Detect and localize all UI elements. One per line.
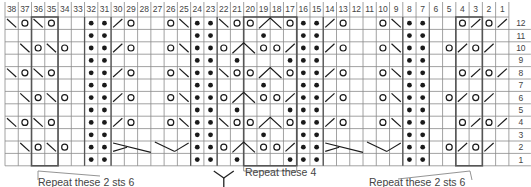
column-label: 21 <box>232 4 242 14</box>
purl-dot-icon <box>89 95 94 100</box>
yarn-over-icon <box>221 95 227 101</box>
column-label: 31 <box>100 4 110 14</box>
column-label: 37 <box>20 4 30 14</box>
purl-dot-icon <box>420 145 425 150</box>
k2tog-icon <box>471 19 480 27</box>
purl-dot-icon <box>195 95 200 100</box>
row-label: 12 <box>516 18 526 28</box>
yarn-over-icon <box>380 45 386 51</box>
ssk-icon <box>7 118 16 126</box>
column-label: 32 <box>86 4 96 14</box>
purl-dot-icon <box>195 70 200 75</box>
ssk-icon <box>7 19 16 27</box>
row-label: 11 <box>516 31 525 41</box>
yarn-over-icon <box>62 144 68 150</box>
k2tog-icon <box>325 93 334 101</box>
yarn-over-icon <box>128 95 134 101</box>
yarn-over-icon <box>486 119 492 125</box>
ssk-icon <box>392 19 401 27</box>
yarn-over-icon <box>261 95 267 101</box>
purl-dot-icon <box>314 83 319 88</box>
purl-dot-icon <box>301 120 306 125</box>
column-label: 16 <box>299 4 309 14</box>
yarn-over-icon <box>340 70 346 76</box>
row-label: 2 <box>519 142 524 152</box>
column-label: 7 <box>420 4 425 14</box>
purl-dot-icon <box>420 33 425 38</box>
purl-dot-icon <box>89 157 94 162</box>
purl-dot-icon <box>89 21 94 26</box>
yarn-over-icon <box>234 20 240 26</box>
k2tog-icon <box>458 44 467 52</box>
column-label: 25 <box>179 4 189 14</box>
ssk-icon <box>20 143 29 151</box>
yarn-over-icon <box>473 45 479 51</box>
purl-dot-icon <box>208 33 213 38</box>
purl-dot-icon <box>407 132 412 137</box>
purl-dot-icon <box>261 83 266 88</box>
yarn-over-icon <box>446 45 452 51</box>
column-label: 18 <box>272 4 282 14</box>
ssk-icon <box>179 44 188 52</box>
purl-dot-icon <box>89 33 94 38</box>
k2tog-icon <box>113 19 122 27</box>
column-label: 30 <box>113 4 123 14</box>
ssk-icon <box>20 44 29 52</box>
yarn-over-icon <box>234 119 240 125</box>
k2tog-icon <box>285 44 294 52</box>
yarn-over-icon <box>446 95 452 101</box>
k2tog-icon <box>113 93 122 101</box>
column-label: 5 <box>447 4 452 14</box>
yarn-over-icon <box>62 95 68 101</box>
yarn-over-icon <box>247 70 253 76</box>
column-label: 23 <box>206 4 216 14</box>
yarn-over-icon <box>35 45 41 51</box>
purl-dot-icon <box>314 120 319 125</box>
purl-dot-icon <box>235 108 240 113</box>
purl-dot-icon <box>420 46 425 51</box>
yarn-over-icon <box>380 119 386 125</box>
cable-icon <box>367 142 387 151</box>
yarn-over-icon <box>247 20 253 26</box>
purl-dot-icon <box>314 33 319 38</box>
purl-dot-icon <box>208 145 213 150</box>
purl-dot-icon <box>102 58 107 63</box>
purl-dot-icon <box>208 70 213 75</box>
row-label: 6 <box>519 93 524 103</box>
k2tog-icon <box>113 118 122 126</box>
k2tog-icon <box>325 44 334 52</box>
k2tog-icon <box>325 69 334 77</box>
purl-dot-icon <box>89 70 94 75</box>
purl-dot-icon <box>314 21 319 26</box>
yarn-over-icon <box>473 144 479 150</box>
purl-dot-icon <box>301 145 306 150</box>
purl-dot-icon <box>407 33 412 38</box>
yarn-over-icon <box>274 95 280 101</box>
purl-dot-icon <box>301 21 306 26</box>
cable-icon <box>325 143 363 152</box>
purl-dot-icon <box>208 58 213 63</box>
column-label: 1 <box>500 4 505 14</box>
purl-dot-icon <box>407 95 412 100</box>
ssk-icon <box>392 118 401 126</box>
k2tog-icon <box>498 118 507 126</box>
ssk-icon <box>179 69 188 77</box>
caption-left: Repeat these 2 sts 6 <box>38 176 134 187</box>
yarn-over-icon <box>261 144 267 150</box>
purl-dot-icon <box>195 21 200 26</box>
purl-dot-icon <box>420 21 425 26</box>
purl-dot-icon <box>208 21 213 26</box>
row-label: 3 <box>519 130 524 140</box>
yarn-over-icon <box>274 144 280 150</box>
purl-dot-icon <box>208 83 213 88</box>
cable-icon <box>325 147 339 151</box>
purl-dot-icon <box>288 157 293 162</box>
column-label: 27 <box>153 4 163 14</box>
column-label: 19 <box>259 4 269 14</box>
purl-dot-icon <box>420 70 425 75</box>
ssk-icon <box>7 69 16 77</box>
yarn-over-icon <box>486 70 492 76</box>
purl-dot-icon <box>195 58 200 63</box>
purl-dot-icon <box>407 46 412 51</box>
purl-dot-icon <box>102 46 107 51</box>
